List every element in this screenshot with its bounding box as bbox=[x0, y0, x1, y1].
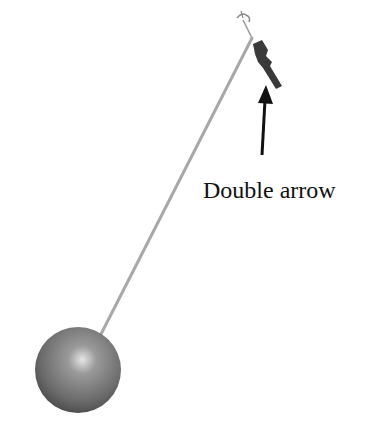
double-arrow-label: Double arrow bbox=[203, 177, 336, 204]
double-arrow-icon bbox=[253, 40, 282, 89]
pivot-hook bbox=[237, 11, 252, 38]
pointer-arrow-icon bbox=[258, 85, 273, 155]
pendulum-diagram: Double arrow bbox=[0, 0, 391, 434]
pendulum-bob bbox=[35, 327, 121, 413]
pendulum-figure bbox=[0, 0, 391, 434]
